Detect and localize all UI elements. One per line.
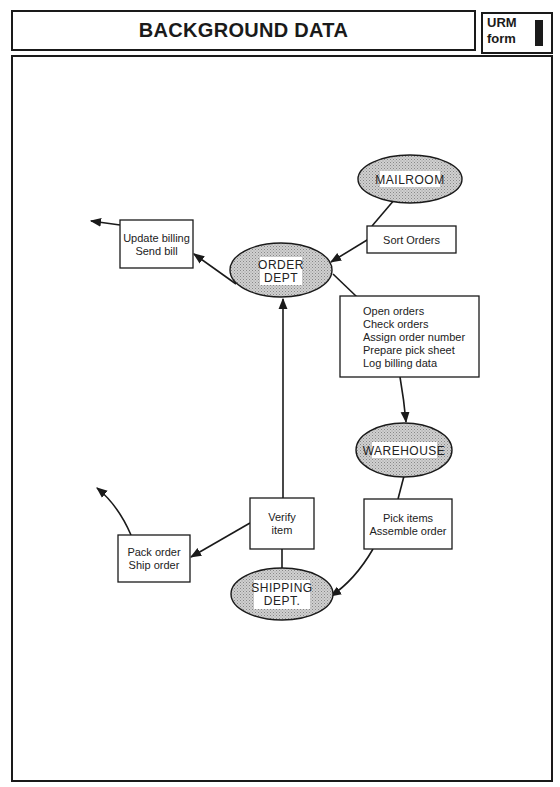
mailroom-label: MAILROOM	[375, 173, 444, 187]
activity-verify: Verify item	[250, 498, 314, 549]
processing-step-4: Prepare pick sheet	[363, 344, 455, 356]
processing-step-1: Open orders	[363, 305, 425, 317]
verify-line-1: Verify	[268, 511, 296, 523]
node-order-dept: ORDER DEPT	[230, 243, 332, 297]
arrow-sort-to-order	[331, 237, 372, 262]
arrow-verify-to-pack	[191, 523, 250, 557]
node-shipping-dept: SHIPPING DEPT.	[231, 568, 333, 620]
arrow-processing-to-warehouse	[400, 377, 406, 422]
workflow-diagram: MAILROOM ORDER DEPT WAREHOUSE SHIPPING D…	[0, 0, 560, 787]
node-mailroom: MAILROOM	[358, 155, 462, 203]
activity-picking: Pick items Assemble order	[364, 499, 452, 549]
verify-line-2: item	[272, 524, 293, 536]
order-dept-label-line1: ORDER	[258, 258, 304, 272]
warehouse-label: WAREHOUSE	[363, 444, 446, 458]
processing-step-5: Log billing data	[363, 357, 438, 369]
order-dept-label-line2: DEPT	[264, 271, 298, 285]
connector-warehouse-to-picking	[398, 476, 404, 499]
arrow-pack-out	[97, 488, 131, 535]
picking-line-2: Assemble order	[369, 525, 446, 537]
arrow-picking-to-shipping	[331, 549, 373, 596]
sort-orders-text: Sort Orders	[383, 234, 440, 246]
activity-order-processing: Open orders Check orders Assign order nu…	[340, 296, 479, 377]
shipping-line-2: Ship order	[129, 559, 180, 571]
shipping-line-1: Pack order	[127, 546, 181, 558]
shipping-label-line2: DEPT.	[264, 594, 301, 608]
billing-line-2: Send bill	[135, 245, 177, 257]
arrow-billing-out	[91, 221, 120, 225]
connector-order-to-processing	[333, 274, 357, 297]
processing-step-2: Check orders	[363, 318, 429, 330]
shipping-label-line1: SHIPPING	[251, 581, 312, 595]
node-warehouse: WAREHOUSE	[356, 423, 452, 477]
picking-line-1: Pick items	[383, 512, 434, 524]
connector-mailroom-sort	[372, 199, 395, 226]
billing-line-1: Update billing	[123, 232, 190, 244]
activity-billing: Update billing Send bill	[120, 220, 193, 268]
activity-shipping: Pack order Ship order	[118, 535, 190, 582]
processing-step-3: Assign order number	[363, 331, 465, 343]
activity-sort-orders: Sort Orders	[367, 226, 456, 253]
